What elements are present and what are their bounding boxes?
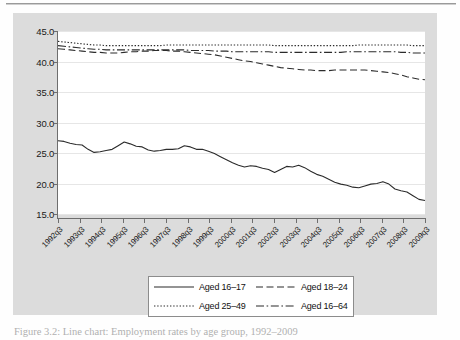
y-axis-tick-label: 45.0: [36, 26, 54, 37]
x-axis-tick: [80, 219, 81, 223]
series-line-aged-16-64: [58, 46, 425, 53]
x-axis-tick-label: 2004q3: [299, 225, 323, 249]
x-axis-tick: [123, 219, 124, 223]
x-axis-tick-label: 1999q3: [191, 225, 215, 249]
figure-caption: Figure 3.2: Line chart: Employment rates…: [14, 326, 454, 337]
x-axis-tick: [317, 219, 318, 223]
series-line-aged-18-24: [58, 49, 425, 80]
y-axis-tick-label: 30.0: [36, 117, 54, 128]
y-axis-tick: [54, 31, 58, 32]
x-axis-tick: [58, 219, 59, 223]
y-axis-tick-label: 20.0: [36, 178, 54, 189]
x-axis-tick-label: 1998q3: [169, 225, 193, 249]
x-axis-tick: [425, 219, 426, 223]
legend-label: Aged 25–49: [199, 301, 246, 311]
legend-key-dashed-icon: [255, 282, 297, 292]
y-axis-tick: [54, 123, 58, 124]
x-axis-tick: [382, 219, 383, 223]
x-axis-tick-label: 2000q3: [213, 225, 237, 249]
x-axis-tick-label: 1994q3: [83, 225, 107, 249]
x-axis-tick-label: 2002q3: [256, 225, 280, 249]
legend-key-dotted-icon: [153, 301, 195, 311]
x-axis-tick-label: 1996q3: [126, 225, 150, 249]
y-axis-tick: [54, 92, 58, 93]
y-axis-tick: [54, 184, 58, 185]
x-axis-tick-label: 2008q3: [385, 225, 409, 249]
grid-line: [58, 214, 425, 215]
x-axis-tick: [360, 219, 361, 223]
legend-label: Aged 16–64: [301, 301, 348, 311]
page-top-rule-shadow: [6, 4, 456, 5]
y-axis-tick-label: 35.0: [36, 87, 54, 98]
x-axis-tick: [339, 219, 340, 223]
x-axis-tick: [166, 219, 167, 223]
x-axis-tick: [101, 219, 102, 223]
figure-page: 45.040.035.030.025.020.015.0 1992q31993q…: [0, 0, 460, 340]
y-axis-tick-label: 40.0: [36, 56, 54, 67]
legend-item[interactable]: Aged 18–24: [251, 282, 353, 292]
x-axis-tick-label: 2001q3: [234, 225, 258, 249]
legend-label: Aged 18–24: [301, 282, 348, 292]
x-axis-tick: [403, 219, 404, 223]
legend-key-solid-icon: [153, 282, 195, 292]
x-axis-tick-label: 1995q3: [105, 225, 129, 249]
legend-item[interactable]: Aged 25–49: [149, 301, 251, 311]
x-axis-tick: [274, 219, 275, 223]
x-axis-tick-label: 2006q3: [342, 225, 366, 249]
series-line-aged-25-49: [58, 41, 425, 45]
series-line-aged-16-17: [58, 141, 425, 201]
x-axis-tick: [231, 219, 232, 223]
x-axis-line: [57, 218, 426, 219]
legend-label: Aged 16–17: [199, 282, 246, 292]
y-axis-tick: [54, 153, 58, 154]
y-axis-tick: [54, 62, 58, 63]
x-axis-tick-label: 1992q3: [40, 225, 64, 249]
x-axis-tick: [252, 219, 253, 223]
y-axis-tick-label: 15.0: [36, 209, 54, 220]
x-axis-tick-label: 2005q3: [321, 225, 345, 249]
x-axis-tick: [188, 219, 189, 223]
x-axis-tick-label: 2009q3: [407, 225, 431, 249]
y-axis-labels: 45.040.035.030.025.020.015.0: [13, 31, 54, 214]
x-axis-tick: [144, 219, 145, 223]
chart-panel: 45.040.035.030.025.020.015.0 1992q31993q…: [13, 13, 437, 315]
x-axis-tick-label: 2007q3: [364, 225, 388, 249]
legend-item[interactable]: Aged 16–64: [251, 301, 353, 311]
legend-key-dashdot-icon: [255, 301, 297, 311]
x-axis-tick-label: 1993q3: [62, 225, 86, 249]
x-axis-tick-label: 2003q3: [277, 225, 301, 249]
x-axis-tick: [209, 219, 210, 223]
x-axis-tick-label: 1997q3: [148, 225, 172, 249]
legend-item[interactable]: Aged 16–17: [149, 282, 251, 292]
y-axis-tick-label: 25.0: [36, 148, 54, 159]
y-axis-tick: [54, 214, 58, 215]
x-axis-tick: [296, 219, 297, 223]
series-lines: [58, 31, 425, 214]
chart-legend: Aged 16–17Aged 18–24Aged 25–49Aged 16–64: [148, 276, 354, 317]
